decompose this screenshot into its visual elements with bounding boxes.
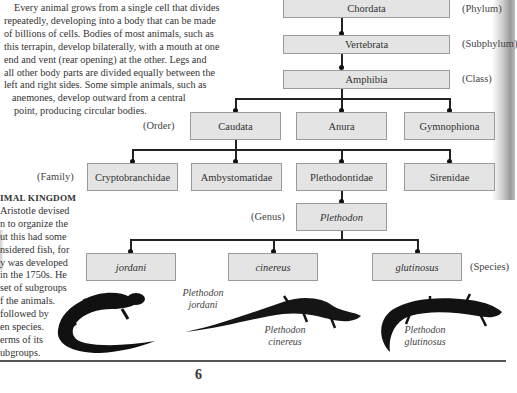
caption-genus: Plethodon <box>404 324 445 335</box>
box-species-cinereus: cinereus <box>228 253 318 281</box>
caption-glutinosus: Plethodon glutinosus <box>390 324 460 348</box>
intro-line: anemones, develop outward from a central <box>4 92 262 105</box>
rank-family: (Family) <box>37 171 74 182</box>
page-number: 6 <box>195 367 202 383</box>
connector <box>132 149 450 151</box>
sidebar-line: n to organize the <box>0 218 90 231</box>
salamander-jordani-image <box>30 285 165 360</box>
intro-line: end and vent (rear opening) at the other… <box>4 54 262 67</box>
box-species-jordani: jordani <box>86 253 176 281</box>
intro-line: Every animal grows from a single cell th… <box>4 2 262 15</box>
caption-genus: Plethodon <box>264 324 305 335</box>
sidebar-line: nsidered fish, for <box>0 244 90 257</box>
intro-line: all other body parts are divided equally… <box>4 67 262 80</box>
box-order-caudata: Caudata <box>190 112 281 140</box>
box-order-anura: Anura <box>296 112 387 140</box>
intro-line: repeatedly, developing into a body that … <box>4 15 262 28</box>
intro-line: this terrapin, develop bilaterally, with… <box>4 41 262 54</box>
box-family-cryptobranchidae: Cryptobranchidae <box>87 163 178 191</box>
rank-genus: (Genus) <box>251 211 285 222</box>
sidebar-line: Aristotle devised <box>0 205 90 218</box>
rank-species: (Species) <box>470 261 509 272</box>
box-class: Amphibia <box>283 70 450 89</box>
rank-subphylum: (Subphylum) <box>462 38 517 49</box>
caption-species: cinereus <box>268 336 302 347</box>
box-family-ambystomatidae: Ambystomatidae <box>191 163 282 191</box>
caption-species: glutinosus <box>404 336 445 347</box>
caption-cinereus: Plethodon cinereus <box>250 324 320 348</box>
sidebar-line: y was developed <box>0 257 90 270</box>
box-subphylum: Vertebrata <box>283 35 450 54</box>
intro-line: left and right sides. Some simple animal… <box>4 79 262 92</box>
connector <box>235 98 450 100</box>
sidebar-line: in the 1750s. He <box>0 269 90 282</box>
sidebar-heading: IMAL KINGDOM <box>0 192 90 205</box>
box-order-gymnophiona: Gymnophiona <box>404 112 495 140</box>
box-family-sirenidae: Sirenidae <box>404 163 495 191</box>
rock-photo-edge <box>492 0 515 200</box>
intro-paragraph: Every animal grows from a single cell th… <box>4 2 262 118</box>
box-family-plethodontidae: Plethodontidae <box>296 163 387 191</box>
box-species-glutinosus: glutinosus <box>372 253 462 281</box>
sidebar-line: ut this had some <box>0 231 90 244</box>
footer-rule <box>0 360 506 362</box>
rank-class: (Class) <box>462 73 492 84</box>
box-phylum: Chordata <box>283 0 450 18</box>
rank-phylum: (Phylum) <box>462 3 502 14</box>
rank-order: (Order) <box>143 120 174 131</box>
intro-line: of billions of cells. Bodies of most ani… <box>4 28 262 41</box>
box-genus-plethodon: Plethodon <box>296 203 387 231</box>
